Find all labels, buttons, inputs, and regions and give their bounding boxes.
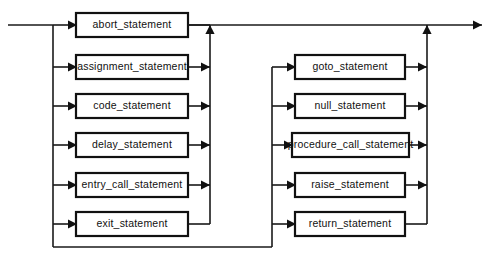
right-group-merge-arrow-icon bbox=[422, 25, 431, 34]
node-label-return-statement: return_statement bbox=[309, 217, 392, 229]
node-label-procedure-call-statement: procedure_call_statement bbox=[288, 138, 414, 150]
node-label-abort-statement: abort_statement bbox=[93, 18, 172, 30]
node-label-assignment-statement: assignment_statement bbox=[77, 60, 187, 72]
railroad-diagram-canvas: abort_statementassignment_statementcode_… bbox=[0, 0, 490, 264]
railroad-diagram-svg: abort_statementassignment_statementcode_… bbox=[0, 0, 490, 264]
node-label-goto-statement: goto_statement bbox=[312, 60, 387, 72]
arrow-out-of-delay-statement-icon bbox=[201, 140, 210, 149]
arrow-out-of-assignment-statement-icon bbox=[201, 62, 210, 71]
arrow-out-of-raise-statement-icon bbox=[418, 180, 427, 189]
node-label-exit-statement: exit_statement bbox=[96, 217, 167, 229]
node-label-raise-statement: raise_statement bbox=[311, 178, 389, 190]
arrow-out-of-entry-call-statement-icon bbox=[201, 180, 210, 189]
node-label-null-statement: null_statement bbox=[314, 99, 385, 111]
arrow-out-of-null-statement-icon bbox=[418, 101, 427, 110]
left-group-merge-arrow-icon bbox=[205, 25, 214, 34]
arrow-out-of-procedure-call-statement-icon bbox=[418, 140, 427, 149]
railroad-diagram-content: abort_statementassignment_statementcode_… bbox=[8, 13, 482, 247]
arrow-out-of-code-statement-icon bbox=[201, 101, 210, 110]
node-label-code-statement: code_statement bbox=[93, 99, 171, 111]
node-label-entry-call-statement: entry_call_statement bbox=[82, 178, 183, 190]
exit-arrow-icon bbox=[473, 20, 482, 29]
arrow-out-of-goto-statement-icon bbox=[418, 62, 427, 71]
node-label-delay-statement: delay_statement bbox=[92, 138, 172, 150]
